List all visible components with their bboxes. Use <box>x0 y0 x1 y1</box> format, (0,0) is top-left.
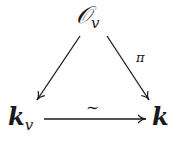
node-top: 𝒪v <box>76 1 99 29</box>
arrow-top-to-left <box>37 36 80 100</box>
arrow-label-iso: ∼ <box>86 98 99 117</box>
node-top-main: 𝒪 <box>76 1 91 29</box>
node-right: k <box>152 102 169 131</box>
node-left: kv <box>8 102 33 131</box>
arrow-top-to-right <box>107 36 149 100</box>
node-right-main: k <box>152 102 169 131</box>
node-left-main: k <box>8 102 25 131</box>
node-top-sub: v <box>91 14 99 32</box>
node-left-sub: v <box>25 116 33 134</box>
arrow-label-pi: π <box>136 50 145 65</box>
